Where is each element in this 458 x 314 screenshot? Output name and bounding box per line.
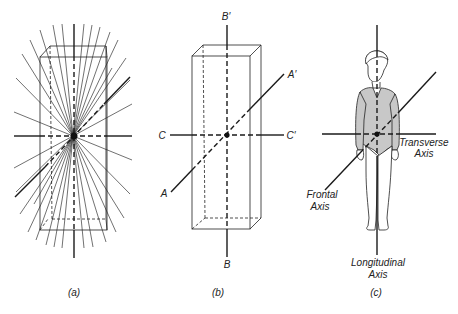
caption-b: (b) (212, 287, 224, 298)
principal-axes-a (14, 24, 132, 258)
label-c: C (158, 130, 166, 141)
center-of-gravity-dot (374, 131, 379, 136)
label-longitudinal-axis: Axis (368, 269, 388, 280)
label-longitudinal: Longitudinal (351, 257, 406, 268)
panel-b-principal-axes: B′ B C C′ A A′ (b) (158, 11, 297, 298)
caption-c: (c) (370, 287, 382, 298)
panel-a-many-axes: (a) (14, 24, 132, 298)
panel-c-human-body-axes: Transverse Axis Frontal Axis Longitudina… (306, 25, 449, 298)
axes-of-rotation-figure: (a) B′ B C C′ A (0, 0, 458, 314)
label-c-prime: C′ (286, 130, 296, 141)
label-b-prime: B′ (222, 11, 232, 22)
label-frontal-axis: Axis (310, 201, 330, 212)
center-of-mass-dot (71, 133, 78, 140)
axes-b (170, 25, 284, 257)
center-dot-b (224, 132, 229, 137)
label-a: A (160, 188, 168, 199)
label-b: B (224, 259, 231, 270)
label-transverse: Transverse (399, 137, 449, 148)
caption-a: (a) (68, 287, 80, 298)
label-frontal: Frontal (306, 189, 338, 200)
label-transverse-axis: Axis (414, 148, 434, 159)
label-a-prime: A′ (287, 69, 298, 80)
